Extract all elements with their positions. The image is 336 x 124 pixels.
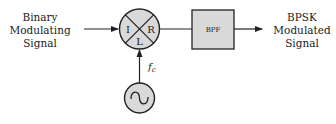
output-label-line-3: Signal — [285, 37, 319, 49]
output-label: BPSK Modulated Signal — [273, 11, 331, 49]
output-label-line-1: BPSK — [287, 11, 317, 23]
mixer: I R L — [120, 9, 160, 49]
bpsk-modulator-diagram: Binary Modulating Signal I R L BPF BPSK … — [0, 0, 336, 124]
carrier-frequency-label: fc — [147, 61, 156, 74]
oscillator — [125, 83, 155, 113]
input-label: Binary Modulating Signal — [9, 11, 71, 49]
mixer-port-i: I — [126, 24, 130, 35]
output-label-line-2: Modulated — [273, 24, 331, 36]
bandpass-filter: BPF — [192, 10, 234, 49]
mixer-port-l: L — [136, 36, 143, 47]
input-label-line-2: Modulating — [9, 24, 71, 36]
input-label-line-3: Signal — [23, 37, 57, 49]
input-label-line-1: Binary — [22, 11, 57, 23]
mixer-port-r: R — [147, 24, 155, 35]
filter-label: BPF — [206, 26, 221, 34]
